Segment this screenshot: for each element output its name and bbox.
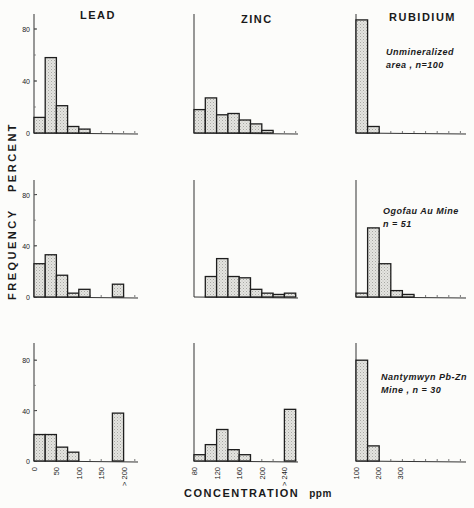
x-axis-label: CONCENTRATIONppm xyxy=(184,487,332,499)
histogram-bar xyxy=(205,445,216,461)
x-tick-label: 120 xyxy=(213,467,222,480)
histogram-bar xyxy=(45,58,56,133)
annotation-line: Nantymwyn Pb-Zn xyxy=(381,371,467,384)
histogram-bar xyxy=(356,293,368,297)
x-tick-label: 160 xyxy=(235,467,244,480)
y-tick-label: 40 xyxy=(22,243,30,250)
histogram-bar xyxy=(217,430,228,462)
y-tick-label: 0 xyxy=(26,294,30,301)
histogram-bar xyxy=(284,409,295,461)
histogram-bar xyxy=(217,115,228,133)
histogram-bar xyxy=(45,435,56,461)
y-tick-label: 40 xyxy=(22,408,30,415)
histogram-bar xyxy=(68,452,79,461)
histogram-bar xyxy=(68,293,79,297)
histogram-bar xyxy=(402,294,414,297)
x-tick-label: 100 xyxy=(75,467,84,480)
histogram-bar xyxy=(56,275,67,297)
histogram-bar xyxy=(284,293,295,297)
x-tick-label: > 240 xyxy=(280,467,289,486)
histogram-bar xyxy=(79,129,90,133)
x-tick-label: 200 xyxy=(258,467,267,480)
histogram-bar xyxy=(34,117,45,133)
histogram-bar xyxy=(239,278,250,297)
histogram-bar xyxy=(205,277,216,297)
column-title-rubidium: RUBIDIUM xyxy=(389,11,456,23)
histogram-bar xyxy=(239,455,250,461)
column-title-zinc: ZINC xyxy=(241,13,273,25)
annotation-line: n = 51 xyxy=(383,218,459,231)
x-tick-label: > 200 xyxy=(120,467,129,486)
histogram-bar xyxy=(217,259,228,297)
histogram-bar xyxy=(56,447,67,461)
histogram-bar xyxy=(239,120,250,133)
y-tick-label: 40 xyxy=(22,78,30,85)
histogram-bar xyxy=(228,277,239,297)
histogram-bar xyxy=(112,284,123,297)
histogram-bar xyxy=(56,106,67,133)
histogram-bar xyxy=(194,455,205,461)
histogram-bar xyxy=(205,98,216,133)
histogram-bar xyxy=(228,114,239,134)
histogram-grid: 040800408004080050100150> 20080120160200… xyxy=(0,0,474,508)
y-tick-label: 0 xyxy=(26,130,30,137)
histogram-bar xyxy=(194,110,205,133)
annotation-line: Ogofau Au Mine xyxy=(383,205,459,218)
column-title-lead: LEAD xyxy=(80,9,116,21)
x-tick-label: 80 xyxy=(190,467,199,475)
histogram-bar xyxy=(34,435,45,461)
histogram-bar xyxy=(262,293,273,297)
histogram-bar xyxy=(45,255,56,297)
annotation-ogofau: Ogofau Au Mine n = 51 xyxy=(383,205,459,231)
histogram-bar xyxy=(251,124,262,133)
y-tick-label: 80 xyxy=(22,192,30,199)
x-axis-unit: ppm xyxy=(309,488,332,499)
annotation-line: Mine , n = 30 xyxy=(381,384,467,397)
annotation-nantymwyn: Nantymwyn Pb-Zn Mine , n = 30 xyxy=(381,371,467,397)
x-tick-label: 150 xyxy=(97,467,106,480)
histogram-bar xyxy=(251,289,262,297)
histogram-bar xyxy=(34,264,45,297)
y-axis-label: FREQUENCY PERCENT xyxy=(6,122,18,300)
histogram-bar xyxy=(368,446,380,461)
histogram-bar xyxy=(228,450,239,461)
y-tick-label: 80 xyxy=(22,26,30,33)
y-tick-label: 0 xyxy=(26,458,30,465)
histogram-bar xyxy=(379,264,391,297)
histogram-bar xyxy=(391,291,403,297)
histogram-bar xyxy=(368,127,380,134)
histogram-bar xyxy=(356,20,368,133)
x-tick-label: 0 xyxy=(30,467,39,471)
histogram-bar xyxy=(368,228,380,297)
x-tick-label: 200 xyxy=(374,467,383,480)
annotation-line: Unmineralized xyxy=(386,46,454,59)
annotation-unmineralized: Unmineralized area , n=100 xyxy=(386,46,454,72)
x-tick-label: 50 xyxy=(52,467,61,475)
x-tick-label: 300 xyxy=(396,467,405,480)
histogram-bar xyxy=(112,413,123,461)
histogram-bar xyxy=(262,130,273,133)
histogram-bar xyxy=(79,289,90,297)
annotation-line: area , n=100 xyxy=(386,59,454,72)
histogram-bar xyxy=(68,127,79,134)
y-tick-label: 80 xyxy=(22,357,30,364)
histogram-bar xyxy=(273,294,284,297)
x-axis-label-text: CONCENTRATION xyxy=(184,487,299,499)
x-tick-label: 100 xyxy=(352,467,361,480)
histogram-bar xyxy=(356,360,368,461)
